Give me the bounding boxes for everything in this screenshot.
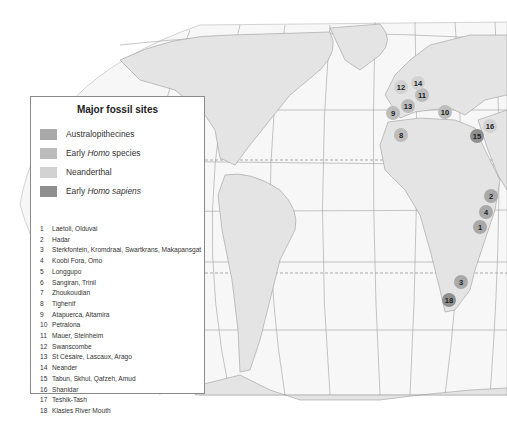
site-name: Sangiran, Trinil [52,278,96,289]
site-name: Laetoli, Olduvai [52,224,97,235]
swatch-neanderthal [40,167,57,178]
site-item: 14Neander [40,363,201,374]
site-number: 1 [40,224,52,235]
site-number: 14 [40,363,52,374]
site-item: 9Atapuerca, Altamira [40,310,201,321]
site-marker-15: 15 [470,129,484,143]
site-marker-13: 13 [401,99,415,113]
site-name: Sterkfontein, Kromdraai, Swartkrans, Mak… [52,245,201,256]
site-item: 15Tabun, Skhul, Qafzeh, Amud [40,374,201,385]
site-item: 8Tighenif [40,299,201,310]
legend-entry-early-homo-sapiens: Early Homo sapiens [40,185,141,197]
site-number: 12 [40,342,52,353]
site-name: Tabun, Skhul, Qafzeh, Amud [52,374,136,385]
site-item: 12Swanscombe [40,342,201,353]
site-item: 6Sangiran, Trinil [40,278,201,289]
site-number: 13 [40,352,52,363]
site-marker-1: 1 [473,220,487,234]
site-item: 11Mauer, Steinheim [40,331,201,342]
legend-label: Early Homo sapiens [66,186,141,196]
site-item: 4Koobi Fora, Omo [40,256,201,267]
legend-entry-early-homo: Early Homo species [40,147,141,159]
site-marker-3: 3 [454,275,468,289]
legend-title: Major fossil sites [31,104,204,115]
site-name: Neander [52,363,77,374]
site-name: Atapuerca, Altamira [52,310,110,321]
site-marker-12: 12 [394,80,408,94]
site-number: 4 [40,256,52,267]
legend-label: Neanderthal [66,167,112,177]
site-number: 15 [40,374,52,385]
site-marker-16: 16 [483,119,497,133]
site-item: 18Klasies River Mouth [40,406,201,417]
site-item: 5Longgupo [40,267,201,278]
legend-entry-australopithecines: Australopithecines [40,128,134,140]
site-number: 11 [40,331,52,342]
site-number: 8 [40,299,52,310]
site-name: St Césaire, Lascaux, Arago [52,352,132,363]
site-marker-2: 2 [484,189,498,203]
site-item: 7Zhoukoudian [40,288,201,299]
site-number: 6 [40,278,52,289]
legend-label: Australopithecines [66,129,134,139]
site-marker-9: 9 [386,106,400,120]
site-name: Longgupo [52,267,81,278]
site-name: Hadar [52,235,70,246]
site-name: Klasies River Mouth [52,406,111,417]
site-item: 3Sterkfontein, Kromdraai, Swartkrans, Ma… [40,245,201,256]
site-item: 16Shanidar [40,385,201,396]
site-list: 1Laetoli, Olduvai 2Hadar 3Sterkfontein, … [40,224,201,417]
site-marker-11: 11 [415,88,429,102]
site-number: 7 [40,288,52,299]
site-marker-10: 10 [438,105,452,119]
site-marker-18: 18 [442,293,456,307]
site-number: 10 [40,320,52,331]
site-number: 3 [40,245,52,256]
site-number: 9 [40,310,52,321]
swatch-early-homo [40,148,57,159]
site-name: Mauer, Steinheim [52,331,103,342]
site-item: 13St Césaire, Lascaux, Arago [40,352,201,363]
legend-label: Early Homo species [66,148,141,158]
site-item: 2Hadar [40,235,201,246]
site-number: 16 [40,385,52,396]
site-name: Teshik-Tash [52,395,87,406]
site-name: Swanscombe [52,342,92,353]
site-item: 1Laetoli, Olduvai [40,224,201,235]
site-item: 10Petralona [40,320,201,331]
site-marker-4: 4 [479,205,493,219]
site-name: Koobi Fora, Omo [52,256,102,267]
site-number: 18 [40,406,52,417]
site-item: 17Teshik-Tash [40,395,201,406]
legend-panel: Major fossil sites Australopithecines Ea… [30,96,205,394]
swatch-early-homo-sapiens [40,186,57,197]
site-number: 17 [40,395,52,406]
site-number: 2 [40,235,52,246]
site-marker-8: 8 [394,128,408,142]
legend-entry-neanderthal: Neanderthal [40,166,112,178]
site-number: 5 [40,267,52,278]
site-name: Petralona [52,320,80,331]
site-name: Tighenif [52,299,75,310]
site-marker-14: 14 [411,76,425,90]
site-name: Zhoukoudian [52,288,90,299]
site-name: Shanidar [52,385,78,396]
swatch-australopithecines [40,129,57,140]
